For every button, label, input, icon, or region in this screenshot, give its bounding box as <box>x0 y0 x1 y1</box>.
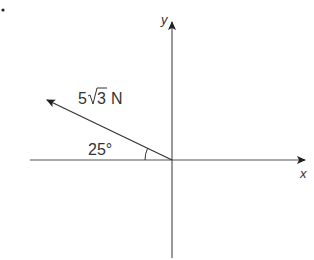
angle-label: 25° <box>88 141 112 158</box>
force-radicand: 3 <box>97 90 106 107</box>
y-axis-label: y <box>160 12 169 27</box>
bullet-marker <box>1 8 4 11</box>
force-magnitude-label: 5 3 N <box>78 88 123 107</box>
force-coefficient: 5 <box>78 90 87 107</box>
angle-arc <box>145 149 148 160</box>
force-diagram: y x 25° 5 3 N <box>0 0 314 260</box>
force-unit: N <box>111 90 123 107</box>
x-axis-label: x <box>299 166 307 181</box>
